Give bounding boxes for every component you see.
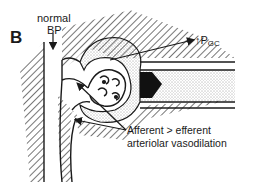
capillary-tuft-outline bbox=[88, 70, 125, 106]
capillary-dot bbox=[103, 81, 106, 84]
glomerulus-diagram bbox=[0, 0, 254, 182]
afferent-arteriole-outer bbox=[71, 118, 76, 182]
panel-label: B bbox=[10, 29, 22, 46]
capillary-loop bbox=[98, 88, 107, 96]
caption-line2: arteriolar vasodilation bbox=[127, 138, 227, 149]
bp-label-line2: BP bbox=[47, 25, 62, 36]
pgc-main: P bbox=[201, 34, 208, 46]
pgc-subscript: GC bbox=[208, 39, 220, 48]
afferent-arteriole-top bbox=[62, 79, 88, 88]
capillary-loop bbox=[112, 79, 119, 86]
bp-label-line1: normal bbox=[37, 13, 71, 24]
glomerular-loops bbox=[88, 70, 125, 106]
pgc-label: ↑PGC bbox=[195, 35, 220, 48]
capillary-dot bbox=[115, 96, 118, 99]
caption-line1: Afferent > efferent bbox=[127, 125, 211, 136]
